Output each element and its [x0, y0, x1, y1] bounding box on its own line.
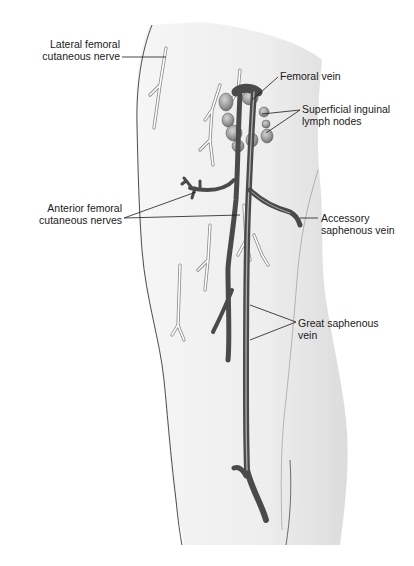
- label-line-1: Femoral vein: [280, 70, 341, 82]
- label-anterior-femoral-cutaneous-nerves: Anterior femoral cutaneous nerves: [30, 202, 122, 226]
- label-line-2: vein: [298, 329, 379, 341]
- label-line-1: Anterior femoral: [30, 202, 122, 214]
- label-femoral-vein: Femoral vein: [280, 70, 341, 82]
- label-line-2: cutaneous nerves: [30, 214, 122, 226]
- label-line-1: Accessory: [321, 212, 395, 224]
- label-superficial-inguinal-lymph-nodes: Superficial inguinal lymph nodes: [302, 103, 390, 127]
- label-lateral-femoral-cutaneous-nerve: Lateral femoral cutaneous nerve: [30, 38, 120, 62]
- label-line-2: cutaneous nerve: [30, 50, 120, 62]
- label-accessory-saphenous-vein: Accessory saphenous vein: [321, 212, 395, 236]
- label-line-1: Lateral femoral: [30, 38, 120, 50]
- label-line-1: Great saphenous: [298, 317, 379, 329]
- label-great-saphenous-vein: Great saphenous vein: [298, 317, 379, 341]
- thigh-anatomy-illustration: [0, 0, 414, 566]
- label-line-2: lymph nodes: [302, 115, 390, 127]
- label-line-2: saphenous vein: [321, 224, 395, 236]
- label-line-1: Superficial inguinal: [302, 103, 390, 115]
